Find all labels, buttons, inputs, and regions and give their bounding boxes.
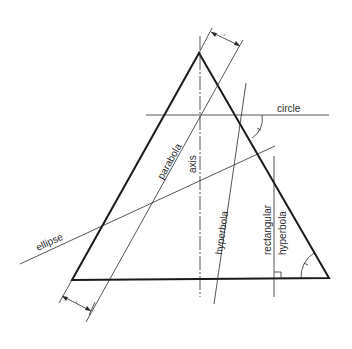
dim-bottom-label: = — [74, 298, 79, 305]
right-angle-marker — [274, 272, 281, 278]
parabola-label: parabola — [155, 141, 184, 181]
ellipse-label: ellipse — [34, 231, 65, 253]
dim-top-label: = — [222, 31, 227, 38]
ellipse-line — [20, 146, 275, 264]
angle-tick-bottom — [304, 263, 308, 265]
bottom-dimension: = — [59, 280, 95, 315]
hyperbola-line — [214, 83, 246, 304]
angle-arc-top — [252, 115, 262, 138]
top-dimension: = — [199, 28, 243, 53]
cone-triangle — [72, 53, 329, 280]
parabola-line — [86, 45, 240, 322]
rectangular-label: rectangular — [262, 204, 273, 255]
circle-label: circle — [277, 103, 301, 114]
rectangular-hyperbola-label: hyperbola — [277, 211, 288, 255]
hyperbola-label: hyperbola — [213, 210, 230, 255]
angle-arc-bottom — [301, 253, 314, 278]
conic-sections-diagram: = = circle ellipse parabola axis hyperbo… — [0, 0, 352, 349]
axis-label: axis — [187, 155, 198, 173]
